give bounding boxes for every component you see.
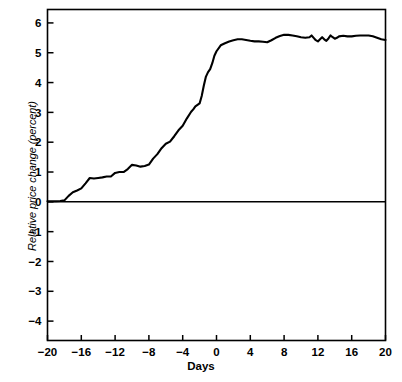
x-tick-label: −12 <box>105 346 125 358</box>
x-tick-label: 4 <box>247 346 254 358</box>
x-tick-label: −20 <box>38 346 58 358</box>
chart-background <box>0 0 402 382</box>
x-axis-label: Days <box>0 360 402 372</box>
y-tick-label: 6 <box>35 17 41 29</box>
x-tick-label: 0 <box>213 346 219 358</box>
x-tick-label: −16 <box>72 346 92 358</box>
y-tick-label: −4 <box>28 315 42 327</box>
chart-figure: −20−16−12−8−4048121620 −4−3−2−10123456 R… <box>0 0 402 382</box>
x-tick-label: 16 <box>345 346 358 358</box>
y-axis-label: Relative price change (percent) <box>26 56 38 296</box>
x-tick-label: 20 <box>379 346 392 358</box>
x-tick-label: 8 <box>281 346 288 358</box>
line-chart-svg: −20−16−12−8−4048121620 −4−3−2−10123456 <box>0 0 402 382</box>
x-tick-label: −8 <box>142 346 156 358</box>
x-tick-label: −4 <box>176 346 190 358</box>
x-tick-label: 12 <box>312 346 325 358</box>
